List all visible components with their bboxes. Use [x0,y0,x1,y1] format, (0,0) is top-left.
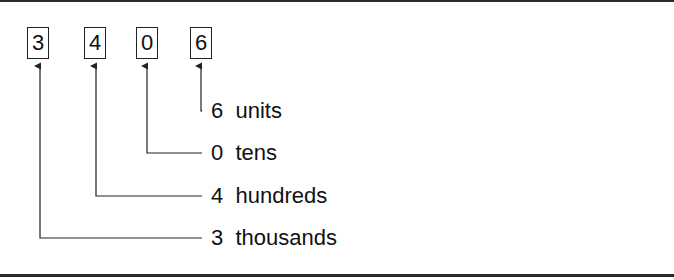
arrow-tens [147,66,202,153]
label-tens: 0 tens [211,142,277,164]
arrow-hundreds [96,66,202,196]
label-thousands: 3 thousands [211,227,337,249]
connector-lines [0,0,674,280]
label-hundreds: 4 hundreds [211,185,327,207]
label-units: 6 units [211,100,282,122]
bottom-rule [0,274,674,277]
arrow-thousands [40,66,202,238]
